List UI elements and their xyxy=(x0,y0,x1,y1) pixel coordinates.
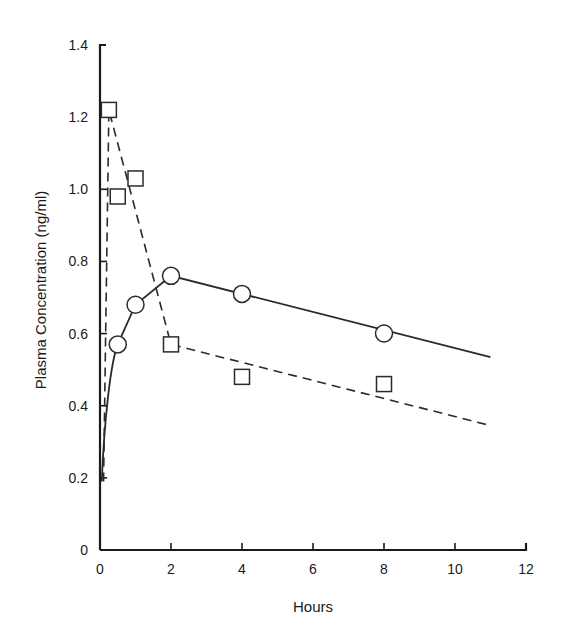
x-axis-label: Hours xyxy=(293,598,333,615)
square-marker xyxy=(128,171,143,186)
square-marker xyxy=(235,369,250,384)
circle-marker xyxy=(163,267,180,284)
series-lines xyxy=(102,110,491,482)
circle-marker xyxy=(109,336,126,353)
x-tick-label: 4 xyxy=(238,561,246,577)
y-tick-label: 0.6 xyxy=(69,326,89,342)
x-tick-label: 8 xyxy=(380,561,388,577)
x-tick-label: 2 xyxy=(167,561,175,577)
y-axis-label: Plasma Concentration (ng/ml) xyxy=(32,191,49,389)
circle-marker xyxy=(127,296,144,313)
x-ticks: 024681012 xyxy=(96,543,534,577)
y-tick-label: 0.8 xyxy=(69,253,89,269)
x-tick-label: 0 xyxy=(96,561,104,577)
x-tick-label: 6 xyxy=(309,561,317,577)
square-marker xyxy=(377,377,392,392)
y-tick-label: 0 xyxy=(80,542,88,558)
circle-marker xyxy=(376,325,393,342)
dashed-fit-line xyxy=(104,110,491,482)
y-tick-label: 0.4 xyxy=(69,398,89,414)
y-tick-label: 1.2 xyxy=(69,109,89,125)
square-marker xyxy=(110,189,125,204)
square-marker xyxy=(164,337,179,352)
axes xyxy=(100,45,526,550)
solid-fit-line xyxy=(102,276,491,482)
x-tick-label: 10 xyxy=(447,561,463,577)
y-tick-label: 0.2 xyxy=(69,470,89,486)
circle-marker xyxy=(234,285,251,302)
x-tick-label: 12 xyxy=(518,561,534,577)
square-marker xyxy=(101,102,116,117)
y-tick-label: 1.0 xyxy=(69,181,89,197)
y-tick-label: 1.4 xyxy=(69,37,89,53)
chart: 024681012 00.20.40.60.81.01.21.4 Hours P… xyxy=(0,0,561,642)
